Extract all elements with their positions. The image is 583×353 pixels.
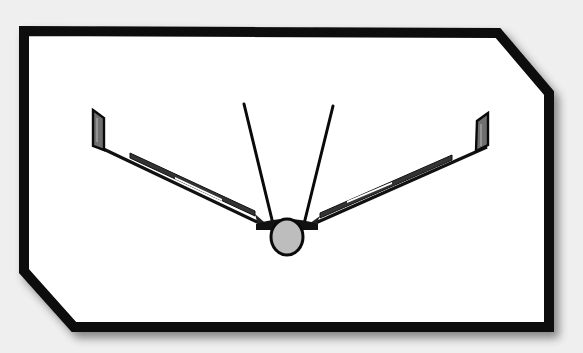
diagram-canvas bbox=[0, 0, 583, 353]
fuselage bbox=[271, 219, 303, 255]
aircraft-diagram bbox=[0, 0, 583, 353]
left-winglet bbox=[93, 110, 104, 150]
frame bbox=[24, 31, 549, 327]
